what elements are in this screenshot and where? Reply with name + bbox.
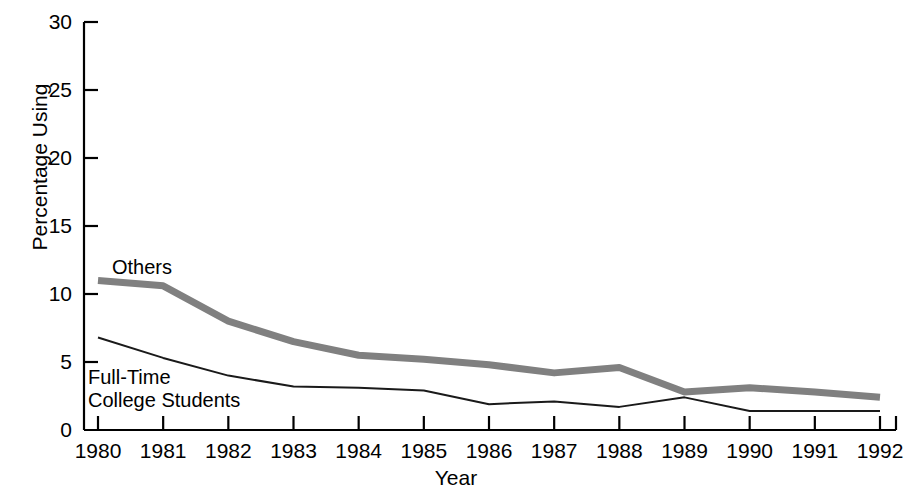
series-label-full-time-college-students: Full-Time College Students (88, 366, 240, 412)
series-label-fulltime-line2: College Students (88, 389, 240, 412)
plot-area (0, 0, 912, 494)
series-label-others-text: Others (112, 256, 172, 278)
series-label-others: Others (112, 256, 172, 279)
line-chart-figure: Percentage Using Year 051015202530 19801… (0, 0, 912, 494)
series-label-fulltime-line1: Full-Time (88, 366, 240, 389)
